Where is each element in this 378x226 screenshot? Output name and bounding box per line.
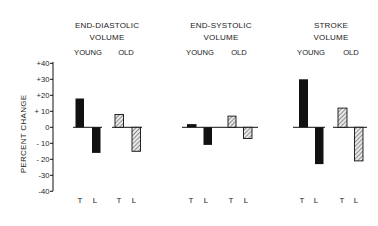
condition-label: L: [204, 196, 209, 205]
y-tick-label: +20: [37, 91, 50, 100]
panels: END-DIASTOLICVOLUMEYOUNGTLOLDTLEND-SYSTO…: [73, 21, 367, 205]
y-axis-ticks: +40+30+20+ 100- 10- 20-30-40: [35, 59, 54, 196]
bar-young-t: [76, 99, 85, 128]
group-label-young: YOUNG: [297, 48, 325, 57]
y-tick-label: +30: [37, 75, 50, 84]
condition-label: T: [189, 196, 194, 205]
condition-label: T: [78, 196, 83, 205]
condition-label: L: [132, 196, 137, 205]
bar-old-t: [228, 116, 236, 127]
bar-young-t: [187, 124, 197, 127]
condition-label: T: [300, 196, 305, 205]
panel-end-systolic-volume: END-SYSTOLICVOLUMEYOUNGTLOLDTL: [182, 21, 258, 205]
panel-title-line: VOLUME: [90, 33, 125, 42]
bar-young-l: [315, 127, 324, 164]
panel-title-line: END-SYSTOLIC: [190, 21, 251, 30]
condition-label: L: [244, 196, 249, 205]
panel-stroke-volume: STROKEVOLUMEYOUNGTLOLDTL: [293, 21, 367, 205]
y-tick-label: -40: [39, 187, 50, 196]
group-label-old: OLD: [343, 48, 359, 57]
panel-end-diastolic-volume: END-DIASTOLICVOLUMEYOUNGTLOLDTL: [73, 21, 142, 205]
condition-label: T: [340, 196, 345, 205]
condition-label: L: [93, 196, 98, 205]
y-tick-label: -30: [39, 171, 50, 180]
condition-label: T: [117, 196, 122, 205]
bar-young-l: [92, 127, 101, 153]
group-label-old: OLD: [231, 48, 247, 57]
panel-title-line: VOLUME: [314, 33, 349, 42]
bar-old-t: [338, 108, 347, 127]
panel-title-line: STROKE: [314, 21, 348, 30]
group-label-young: YOUNG: [74, 48, 102, 57]
bar-young-t: [299, 79, 308, 127]
group-label-young: YOUNG: [186, 48, 214, 57]
y-tick-label: - 20: [36, 155, 49, 164]
y-tick-label: +40: [37, 59, 50, 68]
bar-young-l: [204, 127, 213, 145]
figure-percent-change-volumes: PERCENT CHANGE +40+30+20+ 100- 10- 20-30…: [0, 0, 378, 226]
chart-canvas: PERCENT CHANGE +40+30+20+ 100- 10- 20-30…: [0, 0, 378, 226]
y-tick-label: 0: [45, 123, 49, 132]
bar-old-l: [132, 127, 141, 151]
panel-title-line: END-DIASTOLIC: [75, 21, 139, 30]
y-tick-label: - 10: [36, 139, 49, 148]
y-axis: +40+30+20+ 100- 10- 20-30-40: [35, 59, 54, 196]
condition-label: L: [314, 196, 319, 205]
y-tick-label: + 10: [35, 107, 50, 116]
panel-title-line: VOLUME: [204, 33, 239, 42]
y-axis-label: PERCENT CHANGE: [19, 95, 28, 174]
bar-old-l: [355, 127, 364, 161]
group-label-old: OLD: [118, 48, 134, 57]
condition-label: L: [354, 196, 359, 205]
condition-label: T: [229, 196, 234, 205]
bar-old-t: [115, 115, 124, 128]
bar-old-l: [244, 127, 253, 138]
